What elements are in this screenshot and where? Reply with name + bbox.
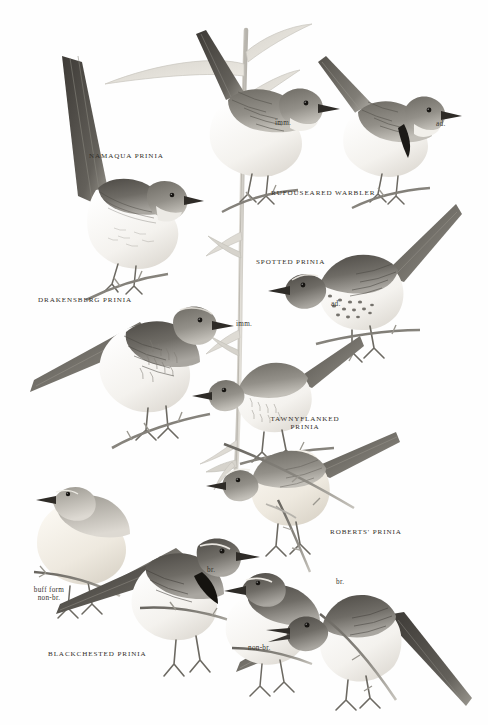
age-label-rufouseared-imm: imm. [275,119,291,127]
bird-blackchested-nonbr [224,573,320,696]
bird-rufouseared-warbler-ad [318,56,462,208]
twig-roberts-upper [266,500,310,572]
species-label-blackchested-prinia: BLACKCHESTED PRINIA [48,650,146,658]
age-label-blackchested-br: br. [207,566,215,574]
bird-spotted-prinia-imm [192,336,364,465]
bird-spotted-prinia-ad [268,204,462,362]
age-label-blackchested-nonbr: non-br. [248,644,271,652]
species-label-spotted-prinia: SPOTTED PRINIA [256,258,325,266]
bird-rufouseared-warbler-imm [196,30,340,212]
age-label-rufouseared-ad: ad. [436,120,445,128]
species-label-roberts-prinia: ROBERTS' PRINIA [330,528,402,536]
age-label-spotted-imm: imm. [236,320,252,328]
age-label-blackchested-buff-nonbr: buff form non-br. [34,586,64,603]
species-label-tawnyflanked-prinia: TAWNYFLANKED PRINIA [270,415,339,432]
age-label-roberts-br: br. [336,578,344,586]
bird-tawnyflanked-prinia [206,432,400,556]
species-label-rufouseared-warbler: RUFOUSEARED WARBLER [271,189,375,197]
species-label-drakensberg-prinia: DRAKENSBERG PRINIA [38,296,132,304]
bird-drakensberg-prinia [30,307,234,449]
bird-namaqua-prinia [62,56,204,300]
field-guide-plate: NAMAQUA PRINIA RUFOUSEARED WARBLER DRAKE… [0,0,488,725]
plate-artwork [0,0,488,725]
age-label-spotted-ad: ad. [331,300,340,308]
species-label-namaqua-prinia: NAMAQUA PRINIA [89,152,164,160]
bird-roberts-prinia [266,595,472,710]
